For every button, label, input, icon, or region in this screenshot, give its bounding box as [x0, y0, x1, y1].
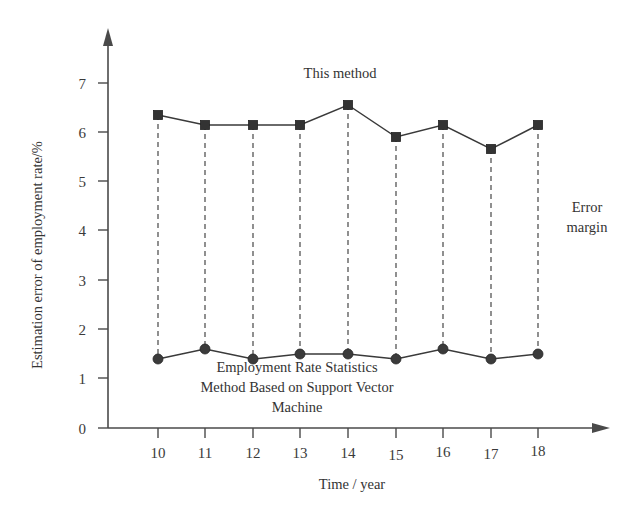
x-axis-tick-labels: 10 11 12 13 14 15 16 17 18 — [151, 443, 546, 463]
x-tick-label-15: 15 — [389, 447, 404, 463]
y-axis-arrow-icon — [103, 28, 113, 46]
x-tick-label-14: 14 — [341, 445, 357, 461]
annotation-error-margin-line-2: margin — [567, 219, 609, 235]
annotation-svm-method-line-2: Method Based on Support Vector — [200, 379, 393, 395]
annotation-svm-method-line-3: Machine — [272, 399, 323, 415]
series-this-method-marker-10 — [154, 111, 163, 120]
series-this-method-marker-13 — [296, 121, 305, 130]
error-margin-connectors — [158, 105, 538, 359]
series-this-method-marker-11 — [201, 121, 210, 130]
series-svm-method-marker-13 — [295, 349, 305, 359]
series-svm-method-marker-15 — [391, 354, 401, 364]
series-svm-method-marker-14 — [343, 349, 353, 359]
y-axis — [103, 28, 113, 428]
x-tick-label-16: 16 — [436, 444, 452, 460]
x-axis-title: Time / year — [319, 476, 385, 492]
x-tick-label-17: 17 — [484, 446, 500, 462]
series-svm-method-marker-17 — [486, 354, 496, 364]
annotation-error-margin-line-1: Error — [572, 199, 603, 215]
series-this-method-marker-12 — [249, 121, 258, 130]
x-axis — [108, 423, 610, 433]
series-this-method-marker-15 — [392, 133, 401, 142]
y-tick-label-6: 6 — [79, 125, 87, 141]
annotation-this-method: This method — [304, 65, 378, 81]
y-tick-label-5: 5 — [79, 174, 87, 190]
x-tick-label-10: 10 — [151, 445, 166, 461]
y-tick-label-4: 4 — [79, 223, 87, 239]
x-tick-label-13: 13 — [293, 445, 308, 461]
y-tick-label-3: 3 — [79, 273, 87, 289]
series-this-method-marker-16 — [439, 121, 448, 130]
series-this-method-marker-18 — [534, 121, 543, 130]
annotation-svm-method-line-1: Employment Rate Statistics — [216, 359, 377, 375]
series-svm-method-marker-10 — [153, 354, 163, 364]
y-tick-label-2: 2 — [79, 322, 87, 338]
series-svm-method-marker-18 — [533, 349, 543, 359]
y-tick-label-7: 7 — [79, 76, 87, 92]
series-svm-method-marker-16 — [438, 344, 448, 354]
y-axis-title: Estimation error of employment rate/% — [29, 141, 45, 369]
employment-error-line-chart: 7 6 5 4 3 2 1 0 10 11 12 13 14 — [0, 0, 635, 512]
chart-figure: 7 6 5 4 3 2 1 0 10 11 12 13 14 — [0, 0, 635, 512]
series-this-method-marker-14 — [344, 101, 353, 110]
x-axis-arrow-icon — [592, 423, 610, 433]
series-this-method-marker-17 — [487, 145, 496, 154]
y-axis-ticks — [98, 83, 108, 428]
x-tick-label-18: 18 — [531, 443, 546, 459]
x-tick-label-11: 11 — [198, 445, 212, 461]
y-tick-label-0: 0 — [79, 421, 87, 437]
x-tick-label-12: 12 — [246, 445, 261, 461]
x-axis-ticks — [158, 428, 538, 438]
y-tick-label-1: 1 — [79, 371, 87, 387]
series-svm-method-marker-11 — [200, 344, 210, 354]
y-axis-tick-labels: 7 6 5 4 3 2 1 0 — [79, 76, 87, 437]
